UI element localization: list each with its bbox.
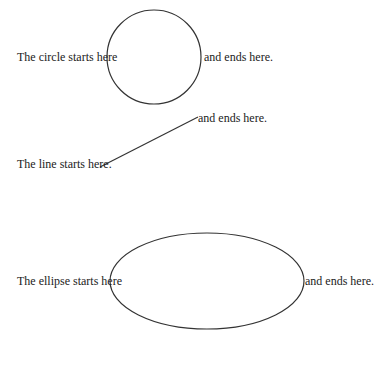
line-end-text: and ends here. xyxy=(198,111,267,125)
ellipse-end-text: and ends here. xyxy=(305,274,374,288)
ellipse-shape xyxy=(110,233,304,329)
circle-start-text: The circle starts here xyxy=(17,50,117,64)
line-start-text: The line starts here. xyxy=(17,157,112,171)
ellipse-start-text: The ellipse starts here xyxy=(17,274,122,288)
circle-end-text: and ends here. xyxy=(204,50,273,64)
circle-shape xyxy=(107,10,201,104)
line-shape xyxy=(100,117,198,167)
